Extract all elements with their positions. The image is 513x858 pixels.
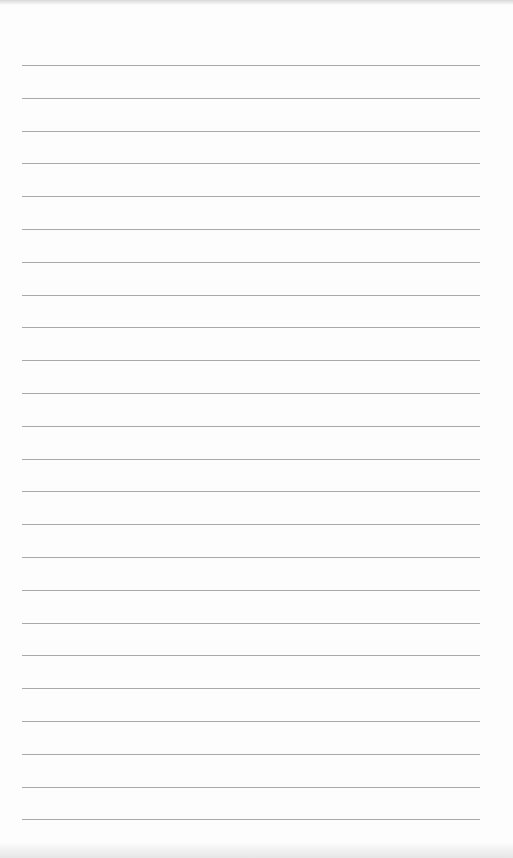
ruled-line <box>22 229 480 230</box>
ruled-line <box>22 131 480 132</box>
ruled-line <box>22 98 480 99</box>
top-edge-shadow <box>0 0 513 5</box>
ruled-line <box>22 655 480 656</box>
ruled-line <box>22 721 480 722</box>
ruled-line <box>22 787 480 788</box>
ruled-line <box>22 163 480 164</box>
ruled-line <box>22 590 480 591</box>
ruled-line <box>22 262 480 263</box>
ruled-line <box>22 819 480 820</box>
ruled-line <box>22 557 480 558</box>
ruled-line <box>22 360 480 361</box>
ruled-line <box>22 459 480 460</box>
ruled-line <box>22 688 480 689</box>
bottom-edge-shadow <box>0 842 513 858</box>
ruled-line <box>22 623 480 624</box>
ruled-line <box>22 754 480 755</box>
ruled-line <box>22 393 480 394</box>
ruled-line <box>22 327 480 328</box>
ruled-line <box>22 524 480 525</box>
ruled-line <box>22 491 480 492</box>
ruled-line <box>22 196 480 197</box>
ruled-line <box>22 295 480 296</box>
ruled-line <box>22 65 480 66</box>
ruled-line <box>22 426 480 427</box>
